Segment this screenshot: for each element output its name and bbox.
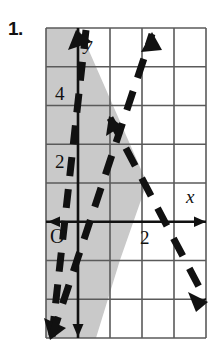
origin-label: O [50, 225, 64, 247]
y-axis-label: y [82, 33, 93, 54]
problem-number: 1. [8, 18, 23, 40]
figure-container: 1. [0, 0, 217, 346]
x-tick-label-2: 2 [140, 227, 150, 248]
y-tick-label-2: 2 [55, 151, 65, 172]
coordinate-grid-graph: y x O 4 2 2 [0, 0, 217, 346]
y-tick-label-4: 4 [55, 83, 65, 104]
x-axis-label: x [185, 186, 195, 207]
